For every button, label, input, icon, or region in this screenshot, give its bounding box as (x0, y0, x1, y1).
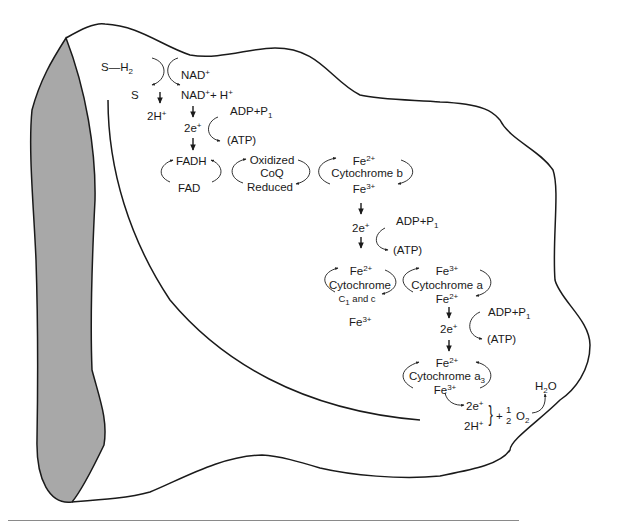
label-atp-2: (ATP) (393, 244, 422, 257)
label-2e-4: 2e+ (466, 400, 483, 413)
label-oxygen: O2 (516, 410, 529, 423)
brace: } (488, 401, 492, 427)
label-2h-4: 2H+ (464, 420, 483, 433)
cut-face (31, 38, 105, 502)
outer-membrane (66, 24, 590, 502)
label-adp-2: ADP+P1 (396, 215, 439, 228)
label-fadh: FADH (176, 155, 207, 168)
label-cytc-top: Fe2+ (350, 265, 373, 278)
inner-membrane (108, 100, 420, 420)
label-adp-3: ADP+P1 (488, 306, 531, 319)
label-cytb-bottom: Fe3+ (353, 183, 376, 196)
mitochondrion-outline (0, 0, 619, 531)
label-cytochrome-c1-c: Cytochrome (329, 279, 391, 292)
label-water: H2O (535, 380, 557, 393)
label-s: S (131, 89, 139, 102)
label-2h: 2H+ (147, 110, 166, 123)
label-fad: FAD (178, 182, 200, 195)
label-coq-reduced: Reduced (247, 181, 293, 194)
label-cytochrome-a3: Cytochrome a3 (409, 370, 485, 383)
label-cyta-bottom: Fe2+ (436, 293, 459, 306)
label-cytc-bottom: Fe3+ (349, 316, 372, 329)
label-cytochrome-a: Cytochrome a (411, 279, 483, 292)
label-coq: CoQ (260, 167, 284, 180)
label-atp-1: (ATP) (227, 134, 256, 147)
label-cyta3-bottom: Fe3+ (434, 384, 457, 397)
label-cyta3-top: Fe2+ (436, 357, 459, 370)
label-atp-3: (ATP) (487, 333, 516, 346)
label-half-denominator: 2 (506, 414, 511, 427)
caption-divider (8, 520, 519, 521)
label-coq-oxidized: Oxidized (250, 154, 295, 167)
label-plus: + (496, 410, 503, 423)
label-substrate: S—H2 (101, 61, 133, 74)
label-cyta-top: Fe3+ (436, 265, 459, 278)
label-2e-2: 2e+ (352, 222, 369, 235)
label-nad: NAD+ (181, 69, 210, 82)
label-cytc-sub: C1 and c (338, 292, 375, 305)
label-nadh: NAD++ H+ (181, 89, 233, 102)
label-adp-1: ADP+P1 (230, 105, 273, 118)
label-cytochrome-b: Cytochrome b (331, 167, 403, 180)
label-2e-1: 2e+ (184, 122, 201, 135)
label-2e-3: 2e+ (440, 323, 457, 336)
